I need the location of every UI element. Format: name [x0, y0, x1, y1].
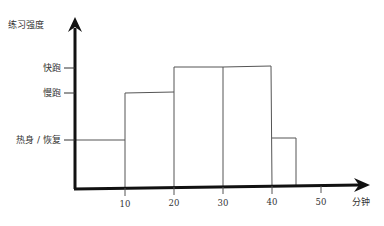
y-axis-title: 练习强度	[8, 19, 44, 30]
x-tick-label-50: 50	[316, 197, 327, 207]
x-axis	[74, 178, 370, 196]
x-tick-label-40: 40	[267, 197, 278, 207]
level-label-jog: 慢跑	[43, 87, 61, 98]
bar-fast-1	[174, 67, 223, 188]
bar-jog	[125, 92, 174, 188]
interval-training-chart: 练习强度 快跑 慢跑 热身 / 恢复 10 20 30 40 50 分钟	[0, 0, 384, 226]
level-label-fast: 快跑	[43, 62, 61, 73]
x-tick-label-20: 20	[169, 198, 180, 208]
bar-fast-2	[223, 66, 272, 187]
bars	[75, 66, 296, 188]
y-axis	[64, 17, 82, 189]
x-tick-label-30: 30	[218, 198, 229, 208]
bar-cooldown	[272, 138, 296, 187]
level-label-warmup: 热身 / 恢复	[16, 134, 61, 145]
bar-warmup-start	[75, 140, 125, 188]
x-tick-label-10: 10	[120, 199, 131, 209]
x-axis-title: 分钟	[352, 196, 370, 207]
